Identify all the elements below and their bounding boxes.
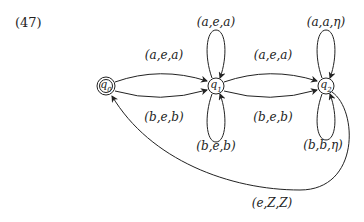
- edge-label: (b,e,b): [196, 139, 235, 153]
- edge-q2-loop-top: [317, 30, 335, 78]
- edge-label: (b,b,η): [303, 138, 343, 152]
- automaton-diagram: (47): [0, 0, 364, 222]
- node-label-q1: q1: [210, 78, 222, 93]
- edge-label: (e,Z,Z): [252, 196, 293, 210]
- edge-q1-q2-upper: [224, 74, 317, 82]
- edge-q2-loop-bottom: [317, 94, 335, 140]
- node-label-q2: q2: [320, 78, 332, 93]
- edge-q0-q1-upper: [115, 74, 207, 82]
- edge-label: (a,e,a): [197, 15, 235, 29]
- edge-label: (a,e,a): [254, 48, 292, 62]
- edge-q1-loop-top: [207, 30, 225, 78]
- edge-label: (b,e,b): [144, 110, 183, 124]
- edge-q1-loop-bottom: [207, 94, 225, 142]
- node-label-q0: q0: [100, 78, 112, 93]
- edge-q0-q1-lower: [115, 90, 207, 97]
- edge-q1-q2-lower: [224, 90, 317, 97]
- edge-label: (a,a,η): [307, 15, 346, 29]
- edge-label: (b,e,b): [253, 110, 292, 124]
- edge-label: (a,e,a): [145, 48, 183, 62]
